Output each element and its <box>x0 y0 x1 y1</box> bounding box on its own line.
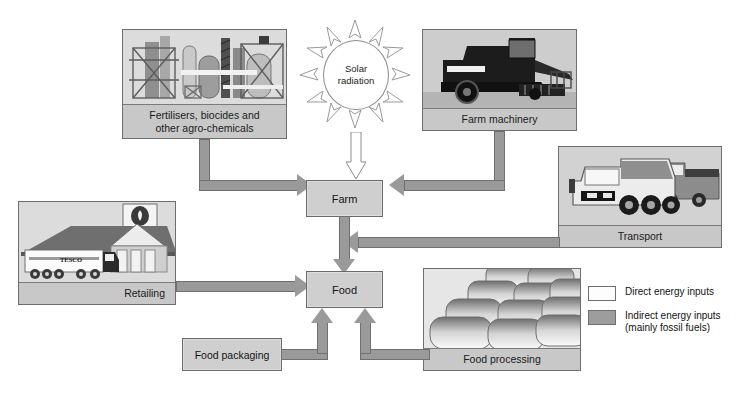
panel-caption-transport: Transport <box>559 225 721 247</box>
panel-caption-retailing: Retailing <box>19 282 175 304</box>
caption-line1: Fertilisers, biocides and <box>149 109 259 121</box>
caption-line1: Farm machinery <box>462 113 538 125</box>
panel-caption-food-processing: Food processing <box>424 348 580 370</box>
chemical-plant-art <box>123 30 286 106</box>
legend: Direct energy inputs Indirect energy inp… <box>588 286 738 343</box>
caption-line2: other agro-chemicals <box>155 122 253 134</box>
solar-radiation-sun-icon: Solar radiation <box>297 18 413 130</box>
chemical-plant-icon <box>123 30 286 106</box>
combine-harvester-icon <box>423 30 576 110</box>
solar-label-line1: Solar <box>345 63 367 75</box>
node-food-packaging-label: Food packaging <box>195 349 270 361</box>
panel-retailing: TESCO TESCO <box>18 201 176 305</box>
trucks-icon <box>559 147 721 227</box>
bread-loaves-icon <box>424 269 580 350</box>
solar-label-line2: radiation <box>338 75 374 87</box>
diagram-canvas: Solar radiation <box>0 0 741 395</box>
combine-harvester-art <box>423 30 576 110</box>
tesco-truck-text: TESCO <box>60 256 82 263</box>
panel-fertilisers: Fertilisers, biocides and other agro-che… <box>122 29 287 139</box>
panel-food-processing: Food processing <box>423 268 581 371</box>
legend-swatch-direct <box>588 286 616 301</box>
bread-loaves-art <box>424 269 580 350</box>
caption-line1: Retailing <box>124 287 165 299</box>
node-food-packaging[interactable]: Food packaging <box>182 338 282 371</box>
panel-farm-machinery: Farm machinery <box>422 29 577 131</box>
legend-label-direct: Direct energy inputs <box>625 286 714 298</box>
legend-label-indirect-line1: Indirect energy inputs <box>625 310 721 321</box>
legend-label-indirect-line2: (mainly fossil fuels) <box>625 322 710 333</box>
panel-caption-fertilisers: Fertilisers, biocides and other agro-che… <box>123 104 286 138</box>
node-farm[interactable]: Farm <box>306 180 383 217</box>
trucks-art <box>559 147 721 227</box>
tesco-store-art: TESCO TESCO <box>19 202 175 284</box>
legend-item-direct: Direct energy inputs <box>588 286 738 301</box>
node-food[interactable]: Food <box>306 271 383 308</box>
solar-radiation-label: Solar radiation <box>323 40 389 110</box>
legend-item-indirect: Indirect energy inputs (mainly fossil fu… <box>588 310 738 334</box>
node-farm-label: Farm <box>332 193 358 205</box>
legend-label-indirect: Indirect energy inputs (mainly fossil fu… <box>625 310 721 334</box>
panel-transport: Transport <box>558 146 722 248</box>
panel-caption-farm-machinery: Farm machinery <box>423 108 576 130</box>
supermarket-icon: TESCO TESCO <box>19 202 175 284</box>
legend-swatch-indirect <box>588 310 616 325</box>
arrow-solar-to-farm <box>345 132 367 180</box>
node-food-label: Food <box>332 284 357 296</box>
caption-line1: Transport <box>618 230 663 242</box>
caption-line1: Food processing <box>463 353 541 365</box>
